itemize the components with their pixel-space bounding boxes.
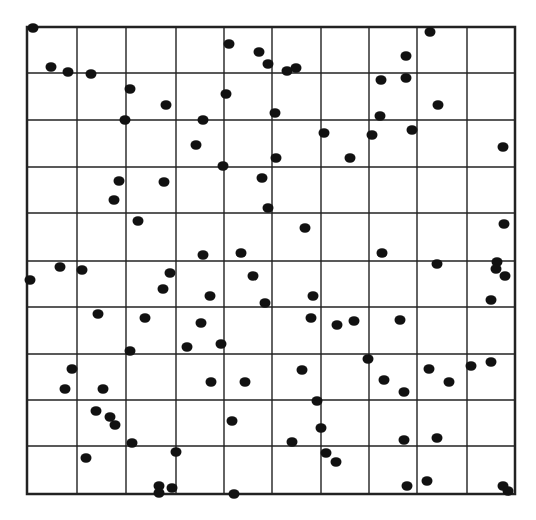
- scatter-point: [236, 248, 247, 258]
- scatter-point: [486, 295, 497, 305]
- scatter-point: [110, 420, 121, 430]
- scatter-point: [316, 423, 327, 433]
- scatter-point: [500, 271, 511, 281]
- scatter-point: [263, 59, 274, 69]
- scatter-point: [125, 346, 136, 356]
- scatter-point: [287, 437, 298, 447]
- scatter-point: [216, 339, 227, 349]
- scatter-point: [499, 219, 510, 229]
- scatter-point: [63, 67, 74, 77]
- scatter-point: [367, 130, 378, 140]
- scatter-point: [331, 457, 342, 467]
- scatter-point: [363, 354, 374, 364]
- scatter-point: [466, 361, 477, 371]
- scatter-point: [154, 488, 165, 498]
- scatter-point: [319, 128, 330, 138]
- scatter-point: [240, 377, 251, 387]
- scatter-point: [424, 364, 435, 374]
- scatter-point: [498, 142, 509, 152]
- scatter-point: [270, 108, 281, 118]
- scatter-point: [114, 176, 125, 186]
- scatter-point: [25, 275, 36, 285]
- scatter-point: [407, 125, 418, 135]
- scatter-point: [432, 259, 443, 269]
- scatter-point: [503, 486, 514, 496]
- scatter-point: [271, 153, 282, 163]
- grid-scatter-diagram: [0, 0, 536, 520]
- scatter-point: [161, 100, 172, 110]
- scatter-point: [98, 384, 109, 394]
- scatter-point: [165, 268, 176, 278]
- scatter-point: [140, 313, 151, 323]
- scatter-point: [109, 195, 120, 205]
- scatter-point: [125, 84, 136, 94]
- scatter-point: [77, 265, 88, 275]
- scatter-point: [377, 248, 388, 258]
- scatter-point: [46, 62, 57, 72]
- scatter-point: [349, 316, 360, 326]
- scatter-point: [433, 100, 444, 110]
- scatter-point: [221, 89, 232, 99]
- scatter-point: [120, 115, 131, 125]
- scatter-point: [229, 489, 240, 499]
- scatter-point: [205, 291, 216, 301]
- scatter-point: [345, 153, 356, 163]
- scatter-point: [402, 481, 413, 491]
- scatter-point: [486, 357, 497, 367]
- scatter-point: [376, 75, 387, 85]
- scatter-point: [257, 173, 268, 183]
- scatter-point: [198, 250, 209, 260]
- scatter-point: [248, 271, 259, 281]
- grid-lines: [27, 27, 515, 494]
- scatter-point: [254, 47, 265, 57]
- scatter-point: [260, 298, 271, 308]
- scatter-point: [198, 115, 209, 125]
- scatter-point: [171, 447, 182, 457]
- scatter-point: [432, 433, 443, 443]
- scatter-point: [444, 377, 455, 387]
- scatter-point: [206, 377, 217, 387]
- scatter-point: [158, 284, 169, 294]
- scatter-point: [167, 483, 178, 493]
- scatter-point: [332, 320, 343, 330]
- scatter-point: [401, 51, 412, 61]
- scatter-point: [55, 262, 66, 272]
- scatter-point: [422, 476, 433, 486]
- scatter-point: [81, 453, 92, 463]
- scatter-point: [263, 203, 274, 213]
- scatter-point: [218, 161, 229, 171]
- scatter-point: [312, 396, 323, 406]
- scatter-point: [159, 177, 170, 187]
- scatter-point: [297, 365, 308, 375]
- scatter-point: [67, 364, 78, 374]
- scatter-point: [127, 438, 138, 448]
- scatter-point: [227, 416, 238, 426]
- scatter-point: [191, 140, 202, 150]
- scatter-point: [425, 27, 436, 37]
- scatter-point: [196, 318, 207, 328]
- scatter-point: [300, 223, 311, 233]
- scatter-point: [308, 291, 319, 301]
- scatter-point: [60, 384, 71, 394]
- scatter-point: [86, 69, 97, 79]
- scatter-point: [91, 406, 102, 416]
- scatter-point: [224, 39, 235, 49]
- scatter-point: [306, 313, 317, 323]
- scatter-point: [379, 375, 390, 385]
- scatter-point: [491, 264, 502, 274]
- scatter-point: [28, 23, 39, 33]
- scatter-point: [321, 448, 332, 458]
- scatter-point: [375, 111, 386, 121]
- scatter-point: [401, 73, 412, 83]
- scatter-point: [93, 309, 104, 319]
- scatter-point: [182, 342, 193, 352]
- scatter-point: [395, 315, 406, 325]
- scatter-point: [399, 435, 410, 445]
- scatter-point: [133, 216, 144, 226]
- scatter-point: [399, 387, 410, 397]
- scatter-point: [291, 63, 302, 73]
